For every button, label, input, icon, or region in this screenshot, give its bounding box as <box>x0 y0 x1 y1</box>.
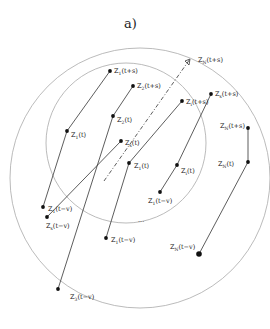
point-dot <box>65 129 69 133</box>
point-label: ZN(t−v) <box>170 243 196 252</box>
point-dot <box>131 84 135 88</box>
point-dot <box>246 126 250 130</box>
point-label: Z1(t−v) <box>111 236 136 245</box>
point-label: Z1(t+s) <box>114 67 138 76</box>
point-dot <box>180 99 184 103</box>
point-dot <box>41 205 45 209</box>
point-dot <box>45 215 49 219</box>
traj-6-line <box>199 128 248 254</box>
point-dot <box>196 251 202 257</box>
point-dot <box>175 163 179 167</box>
point-dot <box>111 114 115 118</box>
point-label: Z1(t) <box>71 131 87 140</box>
point-dot <box>246 160 250 164</box>
point-label: Zi(t) <box>181 167 195 176</box>
point-label: Zs(t) <box>125 139 140 148</box>
point-label: Zs(t+s) <box>215 90 239 99</box>
dashed-vector-label: ZN(t+s) <box>198 56 223 65</box>
traj-5-line <box>160 94 211 192</box>
point-dot <box>56 287 60 291</box>
point-dot <box>104 236 108 240</box>
point-dot <box>119 139 123 143</box>
point-label: ZN(t+s) <box>220 122 245 131</box>
point-label: Z1(t−v) <box>148 197 173 206</box>
point-label: Z2(t+s) <box>137 82 161 91</box>
traj-3-line <box>47 141 121 217</box>
point-label: Z1(t) <box>134 162 150 171</box>
point-label: Zs(t−v) <box>46 222 70 231</box>
trajectory-diagram: Z1(t+s)Z1(t)Z1(t−v)Z2(t+s)Z2(t)Z3(t−v)Zs… <box>0 0 270 329</box>
point-dot <box>158 190 162 194</box>
point-label: ZN(t) <box>218 160 235 169</box>
point-dot <box>209 92 213 96</box>
point-label: Z2(t) <box>117 116 133 125</box>
ellipsis: ... <box>138 216 144 224</box>
point-dot <box>108 69 112 73</box>
point-label: Z3(t−v) <box>70 293 95 302</box>
point-dot <box>127 161 131 165</box>
